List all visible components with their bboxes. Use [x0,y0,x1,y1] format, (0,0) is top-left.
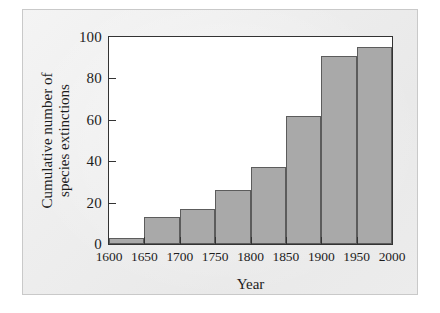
y-axis-tick-label: 100 [79,29,102,46]
x-axis-tick-label: 1750 [202,249,229,265]
figure: 0204060801001600165017001750180018501900… [0,0,440,313]
x-axis-tick [251,237,252,244]
x-axis-tick [144,237,145,244]
bar [251,167,286,244]
x-axis-tick-label: 2000 [379,249,406,265]
y-axis-tick-label: 40 [87,153,102,170]
bar [215,190,250,244]
x-axis-tick [180,237,181,244]
x-axis-tick-label: 1850 [273,249,300,265]
y-axis-title-line-1: Cumulative number of [39,73,56,209]
bar [144,217,179,244]
x-axis-tick-label: 1800 [237,249,264,265]
bar [357,47,392,244]
bar [286,116,321,244]
y-axis-title: Cumulative number of species extinctions [36,36,76,245]
y-axis-tick [109,120,116,121]
x-axis-tick-label: 1700 [166,249,193,265]
x-axis-tick-label: 1600 [96,249,123,265]
x-axis-tick-label: 1950 [343,249,370,265]
bar [321,56,356,244]
y-axis-tick [109,78,116,79]
y-axis-tick-label: 60 [87,111,102,128]
bar [180,209,215,244]
x-axis-tick-label: 1900 [308,249,335,265]
x-axis-tick [321,237,322,244]
y-axis-tick-label: 20 [87,194,102,211]
bar-series [109,37,392,244]
x-axis-tick [286,237,287,244]
plot-area: 0204060801001600165017001750180018501900… [108,36,393,245]
bar [109,238,144,244]
x-axis-tick [215,237,216,244]
x-axis-title: Year [108,276,393,293]
y-axis-tick [109,203,116,204]
y-axis-tick [109,161,116,162]
y-axis-title-line-2: species extinctions [56,84,73,197]
y-axis-tick-label: 80 [87,70,102,87]
x-axis-tick-label: 1650 [131,249,158,265]
x-axis-tick [357,237,358,244]
